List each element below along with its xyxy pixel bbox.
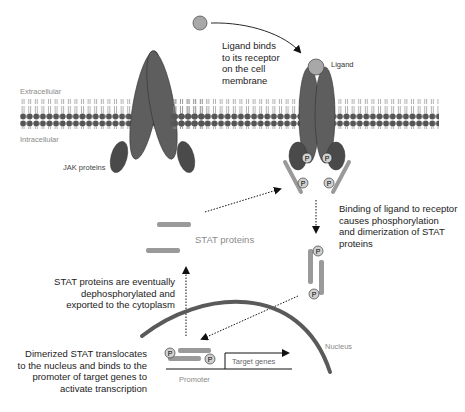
svg-text:P: P bbox=[327, 180, 332, 187]
svg-text:P: P bbox=[316, 248, 321, 255]
ligand-label: Ligand bbox=[331, 60, 354, 69]
jak-protein-left bbox=[107, 139, 131, 174]
promoter-label: Promoter bbox=[179, 375, 210, 384]
dephosphorylated-label: STAT proteins are eventually dephosphory… bbox=[40, 276, 175, 311]
translocates-label: Dimerized STAT translocates to the nucle… bbox=[10, 348, 147, 394]
stat-monomer-2 bbox=[146, 248, 180, 253]
ligand-bound bbox=[308, 59, 324, 75]
nucleus-label: Nucleus bbox=[325, 342, 352, 351]
jak-proteins-label: JAK proteins bbox=[63, 163, 106, 172]
intracellular-label: Intracellular bbox=[20, 135, 59, 144]
stat-dimer-bound: P P bbox=[165, 348, 215, 364]
svg-text:P: P bbox=[208, 356, 213, 363]
target-genes-label: Target genes bbox=[232, 357, 275, 366]
stat-proteins-label: STAT proteins bbox=[195, 234, 254, 246]
binding-causes-label: Binding of ligand to receptor causes pho… bbox=[339, 203, 457, 249]
jak-protein-right bbox=[174, 139, 198, 174]
extracellular-label: Extracellular bbox=[20, 87, 61, 96]
stat-dimer: P P bbox=[308, 246, 324, 299]
svg-text:P: P bbox=[168, 350, 173, 357]
svg-text:P: P bbox=[325, 155, 330, 162]
svg-text:P: P bbox=[305, 155, 310, 162]
svg-text:P: P bbox=[312, 291, 317, 298]
stat-monomer-1 bbox=[157, 222, 191, 227]
ligand-binds-label: Ligand binds to its receptor on the cell… bbox=[222, 40, 280, 86]
ligand-free bbox=[193, 16, 207, 30]
svg-text:P: P bbox=[301, 180, 306, 187]
phosphate-groups-receptor: P P P P bbox=[298, 153, 334, 188]
